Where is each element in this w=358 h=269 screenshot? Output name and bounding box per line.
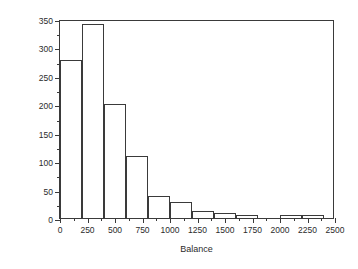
x-axis-tick [170,218,171,223]
histogram-bar [104,104,126,218]
histogram-figure: 050100150200250300350 025050075010001250… [0,0,358,269]
x-axis-tick-label: 500 [108,226,122,235]
y-axis-tick [55,49,60,50]
y-axis-minor-tick [57,149,60,150]
histogram-bar [126,156,148,218]
x-axis-tick [198,218,199,223]
y-axis-tick [55,21,60,22]
y-axis-minor-tick [57,206,60,207]
y-axis-minor-tick [57,92,60,93]
x-axis-tick-label: 2000 [271,226,290,235]
x-axis-tick [280,218,281,223]
y-axis-tick [55,192,60,193]
bar-series [60,21,333,218]
x-axis-minor-tick [74,218,75,221]
y-axis-minor-tick [57,121,60,122]
histogram-bar [170,202,192,218]
x-axis-minor-tick [184,218,185,221]
x-axis-tick [115,218,116,223]
x-axis-tick-label: 750 [135,226,149,235]
y-axis-tick [55,163,60,164]
x-axis-tick [335,218,336,223]
x-axis-title-label: Balance [180,244,213,254]
y-axis-tick [55,106,60,107]
y-axis-tick-label: 300 [39,45,53,54]
x-axis-tick-label: 2250 [298,226,317,235]
x-axis-tick [253,218,254,223]
x-axis-tick [88,218,89,223]
x-axis-minor-tick [156,218,157,221]
y-axis-minor-tick [57,35,60,36]
x-axis-tick [308,218,309,223]
y-axis-tick [55,78,60,79]
y-axis-minor-tick [57,177,60,178]
x-axis-tick-label: 0 [58,226,63,235]
y-axis-tick-label: 200 [39,102,53,111]
plot-area: 050100150200250300350 025050075010001250… [59,20,334,219]
y-axis-tick-label: 100 [39,159,53,168]
x-axis-title: Balance [59,244,334,254]
x-axis-tick-label: 2500 [326,226,345,235]
x-axis-tick-label: 250 [80,226,94,235]
x-axis-tick-label: 1750 [243,226,262,235]
y-axis-minor-tick [57,64,60,65]
histogram-bar [280,215,302,218]
y-axis-tick-label: 350 [39,17,53,26]
y-axis-tick-label: 150 [39,130,53,139]
x-axis-minor-tick [239,218,240,221]
x-axis-tick [143,218,144,223]
y-axis-tick-label: 250 [39,74,53,83]
histogram-bar [60,60,82,218]
x-axis-tick [225,218,226,223]
histogram-bar [82,24,104,218]
x-axis-minor-tick [211,218,212,221]
y-axis-tick-label: 50 [44,187,53,196]
x-axis-tick [60,218,61,223]
x-axis-minor-tick [294,218,295,221]
histogram-bar [148,196,170,218]
x-axis-tick-label: 1000 [161,226,180,235]
x-axis-minor-tick [266,218,267,221]
x-axis-tick-label: 1250 [188,226,207,235]
y-axis-tick [55,135,60,136]
x-axis-tick-label: 1500 [216,226,235,235]
x-axis-minor-tick [321,218,322,221]
x-axis-minor-tick [129,218,130,221]
y-axis-tick-label: 0 [48,216,53,225]
x-axis-minor-tick [101,218,102,221]
histogram-bar [192,211,214,218]
